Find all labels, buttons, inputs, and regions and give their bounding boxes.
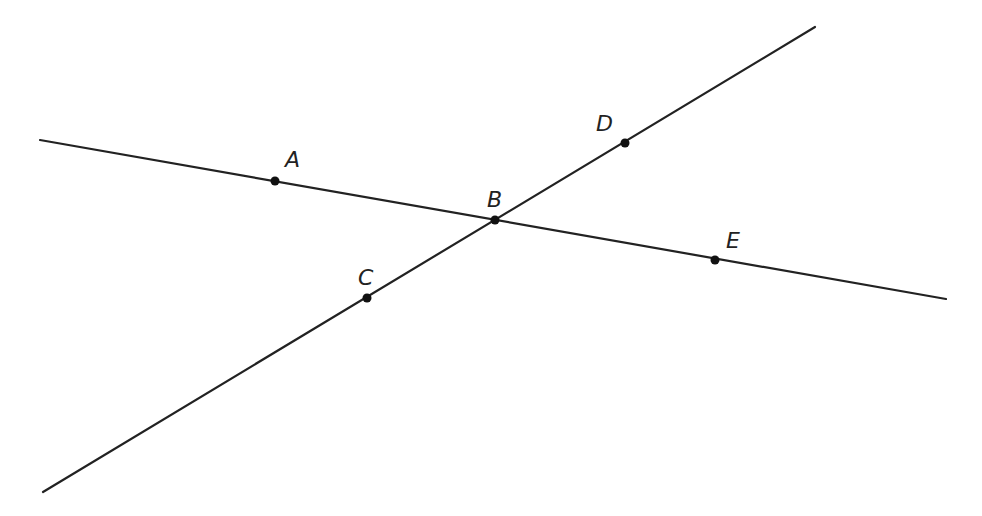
diagram-canvas: A B C D E [0,0,982,516]
label-B: B [487,187,502,212]
label-A: A [283,147,300,172]
point-B [491,216,500,225]
label-C: C [358,265,374,290]
point-C [363,294,372,303]
point-D [621,139,630,148]
point-E [711,256,720,265]
diagram-svg: A B C D E [0,0,982,516]
point-A [271,177,280,186]
label-E: E [726,228,740,253]
line-through-C-B-D [43,27,815,492]
label-D: D [596,111,613,136]
